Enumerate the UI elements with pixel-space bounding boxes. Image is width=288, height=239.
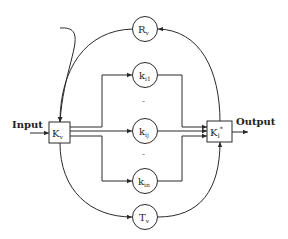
block-diagram: Input Output - - Kv KI* Rv ki1 <box>0 0 288 239</box>
tv-sub: v <box>145 217 150 224</box>
feedback-arc-to-kv <box>60 28 75 122</box>
kij-node: kij <box>133 119 158 144</box>
input-label: Input <box>12 119 43 130</box>
kin-node: kin <box>133 169 158 194</box>
ki1-sub: i1 <box>145 75 151 82</box>
kv-to-ki1-path <box>70 75 132 127</box>
tv-node: Tv <box>133 205 158 230</box>
rv-node: Rv <box>133 17 158 42</box>
kv-to-tv-path <box>60 143 132 217</box>
ellipsis-lower: - <box>142 149 145 159</box>
ki1-to-ki-path <box>158 75 207 127</box>
kv-to-kin-path <box>70 136 132 181</box>
ki1-node: ki1 <box>133 63 158 88</box>
tv-to-ki-path <box>158 142 220 217</box>
ki-star-block: KI* <box>207 121 232 142</box>
output-label: Output <box>236 116 276 127</box>
kij-sub: ij <box>145 131 149 139</box>
kv-block: Kv <box>49 122 70 143</box>
ellipsis-upper: - <box>142 96 145 106</box>
kin-sub: in <box>144 181 150 188</box>
kin-to-ki-path <box>158 136 207 181</box>
kv-sub: v <box>58 133 63 140</box>
ki-sup: * <box>220 125 223 132</box>
rv-sub: v <box>145 29 150 36</box>
